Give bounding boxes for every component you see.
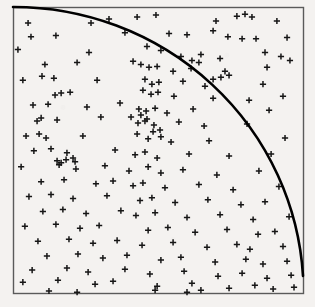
scatter-plot-figure bbox=[0, 0, 315, 307]
plot-canvas bbox=[0, 0, 315, 307]
